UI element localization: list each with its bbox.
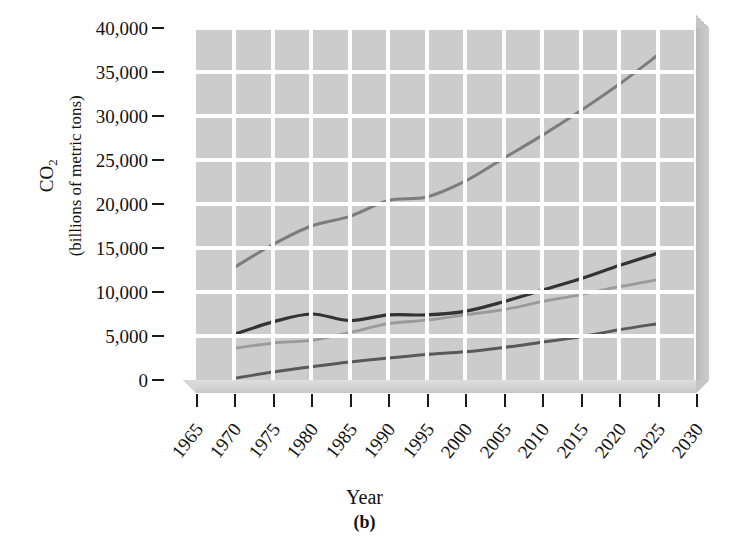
plot-bevel-bottom-left bbox=[183, 380, 196, 393]
x-axis-title: Year bbox=[0, 486, 729, 509]
gridline-vertical bbox=[694, 28, 696, 380]
x-axis-tick-mark bbox=[388, 394, 390, 407]
x-axis-tick-label: 2025 bbox=[619, 420, 668, 475]
gridline-vertical bbox=[540, 28, 544, 380]
x-axis-tick-label: 2005 bbox=[465, 420, 514, 475]
y-axis-tick-label: 20,000 bbox=[96, 195, 148, 214]
x-axis-tick-mark bbox=[427, 394, 429, 407]
x-axis-tick-mark bbox=[350, 394, 352, 407]
x-axis-tick-label: 2010 bbox=[504, 420, 553, 475]
gridline-vertical bbox=[617, 28, 621, 380]
x-axis-tick-label: 1995 bbox=[388, 420, 437, 475]
x-axis-tick-mark bbox=[234, 394, 236, 407]
y-axis-tick-mark bbox=[152, 115, 164, 117]
y-axis-tick-mark bbox=[152, 335, 164, 337]
x-axis-tick-mark bbox=[696, 394, 698, 407]
y-axis-tick-label: 30,000 bbox=[96, 107, 148, 126]
x-axis-tick-mark bbox=[273, 394, 275, 407]
plot-canvas bbox=[196, 28, 696, 380]
x-axis-tick-label: 2000 bbox=[427, 420, 476, 475]
y-axis-tick-label: 10,000 bbox=[96, 283, 148, 302]
x-axis-tick-mark bbox=[465, 394, 467, 407]
y-axis-tick-mark bbox=[152, 159, 164, 161]
data-line-lower-mid bbox=[234, 324, 657, 379]
y-axis-tick-labels: 40,00035,00030,00025,00020,00015,00010,0… bbox=[0, 0, 170, 400]
x-axis-tick-mark bbox=[581, 394, 583, 407]
x-axis-tick-label: 1965 bbox=[158, 420, 207, 475]
gridline-vertical bbox=[271, 28, 275, 380]
gridline-vertical bbox=[656, 28, 660, 380]
x-axis-tick-mark bbox=[311, 394, 313, 407]
gridline-vertical bbox=[232, 28, 236, 380]
gridline-vertical bbox=[309, 28, 313, 380]
y-axis-tick-mark bbox=[152, 71, 164, 73]
y-axis-tick-label: 35,000 bbox=[96, 63, 148, 82]
y-axis-tick-label: 15,000 bbox=[96, 239, 148, 258]
gridline-vertical bbox=[386, 28, 390, 380]
plot-area-3d bbox=[196, 28, 696, 380]
x-axis-tick-mark bbox=[196, 394, 198, 407]
plot-right-face bbox=[696, 28, 709, 380]
x-axis-tick-mark bbox=[619, 394, 621, 407]
x-axis-tick-label: 2030 bbox=[658, 420, 707, 475]
y-axis-tick-label: 40,000 bbox=[96, 19, 148, 38]
y-axis-tick-mark bbox=[152, 247, 164, 249]
y-axis-tick-label: 5,000 bbox=[105, 327, 148, 346]
gridline-vertical bbox=[425, 28, 429, 380]
x-axis-tick-mark bbox=[542, 394, 544, 407]
y-axis-tick-mark bbox=[152, 379, 164, 381]
x-axis-tick-label: 1970 bbox=[196, 420, 245, 475]
y-axis-tick-label: 0 bbox=[139, 371, 149, 390]
y-axis-tick-mark bbox=[152, 203, 164, 205]
x-axis-tick-label: 2015 bbox=[542, 420, 591, 475]
x-axis-tick-mark bbox=[504, 394, 506, 407]
figure-panel: CO2 (billions of metric tons) 40,00035,0… bbox=[0, 0, 729, 538]
x-axis-ticks bbox=[196, 394, 716, 408]
gridline-vertical bbox=[579, 28, 583, 380]
gridline-vertical bbox=[348, 28, 352, 380]
y-axis-tick-mark bbox=[152, 27, 164, 29]
gridline-vertical bbox=[502, 28, 506, 380]
y-axis-tick-mark bbox=[152, 291, 164, 293]
gridline-vertical bbox=[463, 28, 467, 380]
x-axis-tick-label: 1990 bbox=[350, 420, 399, 475]
y-axis-tick-label: 25,000 bbox=[96, 151, 148, 170]
panel-label: (b) bbox=[0, 512, 729, 533]
x-axis-tick-label: 1980 bbox=[273, 420, 322, 475]
x-axis-tick-label: 2020 bbox=[581, 420, 630, 475]
x-axis-tick-label: 1985 bbox=[311, 420, 360, 475]
x-axis-tick-label: 1975 bbox=[235, 420, 284, 475]
plot-bevel-bottom-right bbox=[696, 380, 709, 393]
x-axis-tick-mark bbox=[658, 394, 660, 407]
plot-bottom-face bbox=[196, 380, 696, 393]
plot-bevel-top-right bbox=[696, 15, 709, 28]
